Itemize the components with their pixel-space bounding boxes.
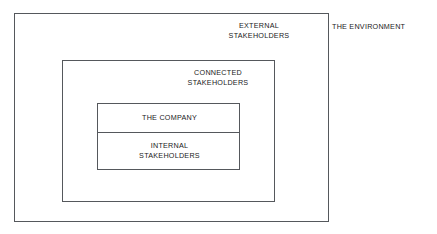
company-internal-divider <box>98 132 239 133</box>
connected-stakeholders-label: CONNECTED STAKEHOLDERS <box>158 68 278 87</box>
connected-stakeholders-box: THE COMPANY INTERNAL STAKEHOLDERS CONNEC… <box>62 60 275 202</box>
external-stakeholders-box: THE COMPANY INTERNAL STAKEHOLDERS CONNEC… <box>14 13 329 222</box>
company-and-internal-stakeholders-box: THE COMPANY INTERNAL STAKEHOLDERS <box>97 103 240 170</box>
the-company-label: THE COMPANY <box>98 113 241 123</box>
the-environment-label: THE ENVIRONMENT <box>332 22 436 32</box>
external-stakeholders-label: EXTERNAL STAKEHOLDERS <box>199 21 319 40</box>
internal-stakeholders-label: INTERNAL STAKEHOLDERS <box>98 141 241 160</box>
stakeholder-environment-diagram: THE COMPANY INTERNAL STAKEHOLDERS CONNEC… <box>0 0 437 234</box>
